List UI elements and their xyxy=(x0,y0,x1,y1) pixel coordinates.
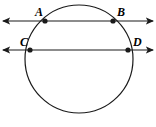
point-c-label: C xyxy=(20,36,28,48)
point-a-label: A xyxy=(35,6,43,18)
point-b-label: B xyxy=(117,6,125,18)
point-b-dot xyxy=(110,18,115,23)
point-a-dot xyxy=(42,18,47,23)
point-c-dot xyxy=(27,47,32,52)
point-d-label: D xyxy=(133,36,142,48)
geometry-canvas xyxy=(0,0,156,127)
point-d-dot xyxy=(125,47,130,52)
geometry-figure: A B C D xyxy=(0,0,156,127)
